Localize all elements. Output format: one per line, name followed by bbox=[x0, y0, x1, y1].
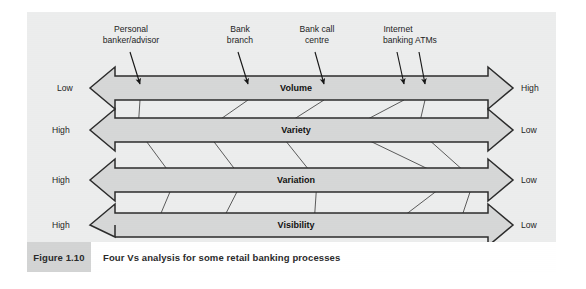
band-right-label-visibility: Low bbox=[521, 220, 537, 230]
process-label-line1: Internet bbox=[369, 24, 427, 35]
band-left-label-variety: High bbox=[52, 125, 70, 135]
figure-number-tag: Figure 1.10 bbox=[27, 242, 91, 272]
band-left-label-variation: High bbox=[52, 175, 70, 185]
band-title-variation: Variation bbox=[261, 175, 331, 185]
process-label-atms: ATMs bbox=[405, 35, 447, 46]
figure-caption-text: Four Vs analysis for some retail banking… bbox=[103, 252, 340, 263]
band-right-label-volume: High bbox=[521, 83, 539, 93]
process-label-bank-branch: Bank branch bbox=[213, 24, 267, 45]
process-label-line1: Bank bbox=[213, 24, 267, 35]
band-left-label-visibility: High bbox=[52, 220, 70, 230]
band-title-volume: Volume bbox=[261, 83, 331, 93]
process-label-bank-call-centre: Bank call centre bbox=[285, 24, 349, 45]
band-title-visibility: Visibility bbox=[261, 220, 331, 230]
four-vs-plot-area: Personal banker/advisor Bank branch Bank… bbox=[27, 12, 556, 242]
process-label-line1: Personal bbox=[85, 24, 177, 35]
process-label-line2: branch bbox=[213, 35, 267, 46]
band-right-label-variation: Low bbox=[521, 175, 537, 185]
band-right-label-variety: Low bbox=[521, 125, 537, 135]
figure-caption-bar: Figure 1.10 Four Vs analysis for some re… bbox=[27, 242, 556, 272]
band-left-label-volume: Low bbox=[57, 83, 73, 93]
process-label-line2: centre bbox=[285, 35, 349, 46]
figure-caption: Four Vs analysis for some retail banking… bbox=[103, 242, 340, 272]
process-label-line1: ATMs bbox=[405, 35, 447, 46]
band-title-variety: Variety bbox=[261, 125, 331, 135]
process-label-line2: banker/advisor bbox=[85, 35, 177, 46]
process-label-personal-banker: Personal banker/advisor bbox=[85, 24, 177, 45]
figure-container: Personal banker/advisor Bank branch Bank… bbox=[0, 0, 586, 289]
figure-panel: Personal banker/advisor Bank branch Bank… bbox=[27, 12, 556, 272]
figure-number-text: Figure 1.10 bbox=[33, 252, 84, 263]
process-label-line1: Bank call bbox=[285, 24, 349, 35]
